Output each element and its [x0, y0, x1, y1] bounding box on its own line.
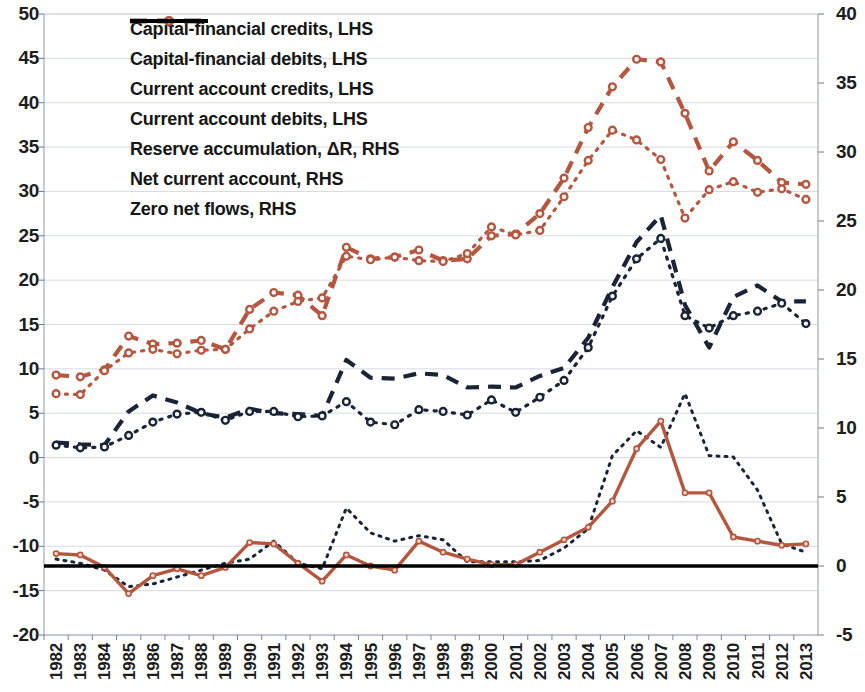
data-point: [585, 344, 592, 351]
data-point: [270, 289, 277, 296]
data-point: [561, 175, 568, 182]
data-point: [416, 257, 423, 264]
legend-item[interactable]: Net current account, RHS: [130, 164, 399, 194]
series-line: [56, 394, 806, 587]
data-point: [53, 372, 60, 379]
data-point: [803, 196, 810, 203]
data-point: [77, 373, 84, 380]
y-axis-left-tick-label: 10: [18, 358, 39, 380]
y-axis-right-tick-label: -5: [836, 624, 852, 646]
data-point: [125, 333, 132, 340]
x-axis-tick-label: 2005: [603, 643, 623, 680]
x-axis-tick-label: 1995: [362, 643, 382, 680]
data-point: [633, 255, 640, 262]
data-point: [416, 539, 421, 544]
y-axis-left-tick-label: 50: [18, 3, 39, 25]
x-axis-tick-label: 2003: [555, 643, 575, 680]
legend-item[interactable]: Capital-financial debits, LHS: [130, 44, 399, 74]
data-point: [53, 390, 60, 397]
data-point: [78, 552, 83, 557]
data-point: [247, 540, 252, 545]
chart-legend: Capital-financial credits, LHSCapital-fi…: [130, 14, 399, 224]
y-axis-right-tick-label: 20: [836, 279, 857, 301]
legend-item[interactable]: Current account credits, LHS: [130, 74, 399, 104]
data-point: [536, 227, 543, 234]
y-axis-left-tick-label: 45: [18, 47, 39, 69]
data-point: [803, 320, 810, 327]
data-point: [512, 231, 519, 238]
data-point: [609, 83, 616, 90]
data-point: [391, 421, 398, 428]
x-axis-tick-label: 1993: [313, 643, 333, 680]
data-point: [440, 408, 447, 415]
data-point: [706, 168, 713, 175]
data-point: [657, 59, 664, 66]
data-point: [657, 156, 664, 163]
y-axis-left-tick-label: 20: [18, 269, 39, 291]
data-point: [706, 325, 713, 332]
y-axis-right-tick-label: 0: [836, 555, 846, 577]
data-point: [416, 247, 423, 254]
data-point: [149, 346, 156, 353]
legend-item[interactable]: Zero net flows, RHS: [130, 194, 399, 224]
data-point: [246, 408, 253, 415]
x-axis-tick-label: 2009: [700, 643, 720, 680]
x-axis-tick-label: 1991: [265, 643, 285, 680]
legend-item[interactable]: Current account debits, LHS: [130, 104, 399, 134]
x-axis-tick-label: 1983: [71, 643, 91, 680]
x-axis-tick-label: 1989: [216, 643, 236, 680]
x-axis-tick-label: 1985: [120, 643, 140, 680]
x-axis-tick-label: 1987: [168, 643, 188, 680]
y-axis-left-tick-label: 5: [29, 402, 39, 424]
data-point: [803, 181, 810, 188]
data-point: [270, 308, 277, 315]
data-point: [440, 550, 445, 555]
data-point: [246, 306, 253, 313]
y-axis-left-tick-label: -15: [12, 580, 39, 602]
data-point: [778, 185, 785, 192]
legend-label: Current account debits, LHS: [130, 109, 368, 130]
data-point: [464, 250, 471, 257]
data-point: [609, 127, 616, 134]
data-point: [101, 444, 108, 451]
data-point: [633, 137, 640, 144]
data-point: [174, 411, 181, 418]
data-point: [730, 312, 737, 319]
data-point: [778, 300, 785, 307]
data-point: [174, 350, 181, 357]
y-axis-right-tick-label: 40: [836, 3, 857, 25]
series-4: [56, 394, 806, 587]
data-point: [149, 419, 156, 426]
data-point: [707, 490, 712, 495]
data-point: [319, 312, 326, 319]
legend-label: Current account credits, LHS: [130, 79, 373, 100]
data-point: [488, 397, 495, 404]
x-axis-tick-label: 2007: [652, 643, 672, 680]
y-axis-right-tick-label: 25: [836, 210, 857, 232]
data-point: [199, 573, 204, 578]
data-point: [561, 377, 568, 384]
x-axis-tick-label: 1986: [144, 643, 164, 680]
data-point: [125, 349, 132, 356]
y-axis-left-tick-label: 25: [18, 225, 39, 247]
data-point: [512, 409, 519, 416]
x-axis-tick-label: 1982: [47, 643, 67, 680]
legend-item[interactable]: Reserve accumulation, ΔR, RHS: [130, 134, 399, 164]
series-5: [53, 419, 808, 597]
data-point: [343, 398, 350, 405]
x-axis-tick-label: 1984: [95, 643, 115, 680]
y-axis-left-tick-label: 35: [18, 136, 39, 158]
legend-label: Reserve accumulation, ΔR, RHS: [130, 139, 399, 160]
data-point: [682, 110, 689, 117]
data-point: [198, 337, 205, 344]
data-point: [344, 552, 349, 557]
x-axis-tick-label: 2011: [749, 643, 769, 679]
data-point: [657, 235, 664, 242]
data-point: [585, 124, 592, 131]
x-axis-tick-label: 2002: [531, 643, 551, 680]
x-axis-tick-label: 1999: [458, 643, 478, 680]
data-point: [754, 189, 761, 196]
x-axis-tick-label: 2012: [773, 643, 793, 680]
data-point: [150, 573, 155, 578]
data-point: [295, 413, 302, 420]
